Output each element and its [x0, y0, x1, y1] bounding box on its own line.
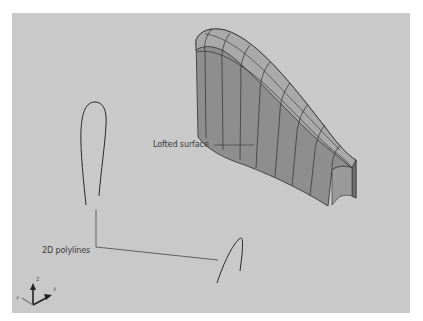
polylines-label: 2D polylines [42, 246, 90, 255]
leader-polylines [96, 210, 218, 260]
svg-text:Z: Z [36, 276, 40, 282]
lofted-surface-label: Lofted surface [153, 140, 209, 149]
svg-text:X: X [53, 286, 57, 292]
polyline-arc [217, 238, 243, 283]
polyline-tall [81, 102, 106, 205]
svg-text:Y: Y [15, 295, 20, 301]
drawing-viewport[interactable]: Z X Y Lofted surface 2D polylines [12, 13, 410, 313]
scene-graphics: Z X Y [12, 13, 410, 313]
lofted-surface [196, 29, 356, 206]
ucs-icon: Z X Y [15, 276, 57, 305]
